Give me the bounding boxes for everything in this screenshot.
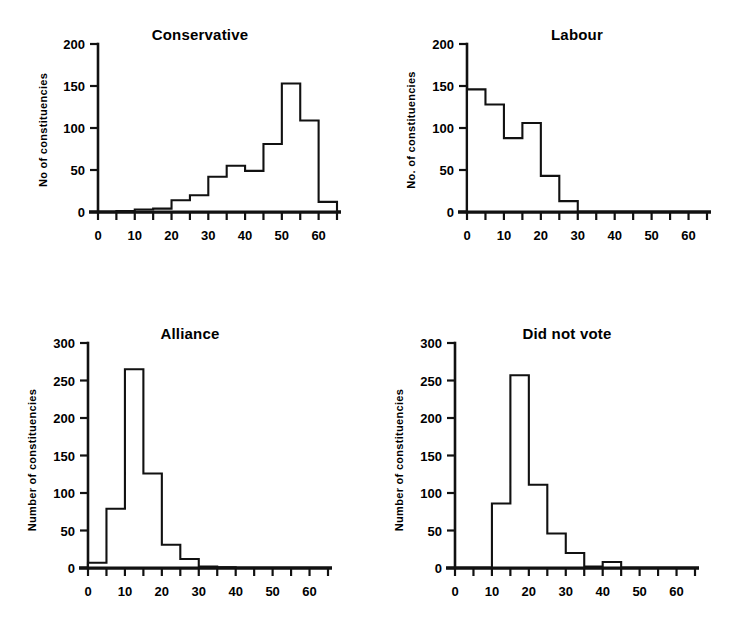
y-tick-label: 0 bbox=[78, 205, 85, 220]
y-tick-label: 200 bbox=[63, 37, 85, 52]
x-tick-label: 50 bbox=[265, 584, 279, 599]
y-tick-label: 250 bbox=[53, 374, 75, 389]
chart-svg: Conservative050100150200No of constituen… bbox=[0, 0, 367, 305]
chart-title: Did not vote bbox=[522, 325, 611, 342]
x-tick-label: 10 bbox=[497, 228, 511, 243]
x-tick-label: 40 bbox=[607, 228, 621, 243]
y-tick-label: 100 bbox=[63, 121, 85, 136]
y-tick-label: 300 bbox=[420, 336, 442, 351]
chart-svg: Did not vote050100150200250300Number of … bbox=[367, 305, 735, 640]
chart-title: Alliance bbox=[160, 325, 219, 342]
panel-alliance: Alliance050100150200250300Number of cons… bbox=[0, 305, 367, 640]
x-tick-label: 30 bbox=[192, 584, 206, 599]
x-tick-label: 50 bbox=[275, 228, 289, 243]
x-tick-label: 40 bbox=[238, 228, 252, 243]
x-tick-label: 10 bbox=[128, 228, 142, 243]
y-tick-label: 150 bbox=[53, 449, 75, 464]
y-tick-label: 100 bbox=[432, 121, 454, 136]
y-tick-label: 150 bbox=[63, 79, 85, 94]
x-tick-label: 30 bbox=[559, 584, 573, 599]
y-axis-title: Number of constituencies bbox=[26, 389, 38, 531]
x-tick-label: 10 bbox=[485, 584, 499, 599]
x-tick-label: 60 bbox=[302, 584, 316, 599]
x-tick-label: 0 bbox=[84, 584, 91, 599]
x-tick-label: 30 bbox=[201, 228, 215, 243]
x-tick-label: 0 bbox=[463, 228, 470, 243]
histogram-figure: Conservative050100150200No of constituen… bbox=[0, 0, 735, 640]
y-tick-label: 200 bbox=[53, 411, 75, 426]
y-axis-title: No. of constituencies bbox=[405, 71, 417, 189]
histogram-outline bbox=[455, 375, 695, 568]
y-tick-label: 100 bbox=[420, 486, 442, 501]
x-tick-label: 0 bbox=[451, 584, 458, 599]
histogram-outline bbox=[98, 83, 337, 212]
y-axis-title: No of constituencies bbox=[37, 73, 49, 187]
x-tick-label: 10 bbox=[118, 584, 132, 599]
y-tick-label: 200 bbox=[432, 37, 454, 52]
y-tick-label: 150 bbox=[420, 449, 442, 464]
y-tick-label: 250 bbox=[420, 374, 442, 389]
y-tick-label: 50 bbox=[440, 163, 454, 178]
chart-title: Conservative bbox=[152, 26, 249, 43]
panel-did-not-vote: Did not vote050100150200250300Number of … bbox=[367, 305, 735, 640]
y-tick-label: 150 bbox=[432, 79, 454, 94]
y-tick-label: 0 bbox=[435, 561, 442, 576]
chart-title: Labour bbox=[551, 26, 603, 43]
histogram-outline bbox=[467, 89, 707, 212]
x-tick-label: 20 bbox=[155, 584, 169, 599]
y-tick-label: 0 bbox=[447, 205, 454, 220]
x-tick-label: 60 bbox=[669, 584, 683, 599]
x-tick-label: 40 bbox=[228, 584, 242, 599]
x-tick-label: 30 bbox=[571, 228, 585, 243]
y-tick-label: 100 bbox=[53, 486, 75, 501]
x-tick-label: 20 bbox=[534, 228, 548, 243]
histogram-outline bbox=[88, 369, 328, 568]
panel-conservative: Conservative050100150200No of constituen… bbox=[0, 0, 367, 305]
y-tick-label: 0 bbox=[68, 561, 75, 576]
x-tick-label: 50 bbox=[632, 584, 646, 599]
y-tick-label: 50 bbox=[428, 524, 442, 539]
x-tick-label: 20 bbox=[164, 228, 178, 243]
chart-svg: Labour050100150200No. of constituencies0… bbox=[367, 0, 735, 305]
x-tick-label: 60 bbox=[311, 228, 325, 243]
x-tick-label: 60 bbox=[681, 228, 695, 243]
x-tick-label: 50 bbox=[644, 228, 658, 243]
x-tick-label: 0 bbox=[94, 228, 101, 243]
chart-svg: Alliance050100150200250300Number of cons… bbox=[0, 305, 367, 640]
x-tick-label: 20 bbox=[522, 584, 536, 599]
y-tick-label: 300 bbox=[53, 336, 75, 351]
y-tick-label: 200 bbox=[420, 411, 442, 426]
panel-labour: Labour050100150200No. of constituencies0… bbox=[367, 0, 735, 305]
y-tick-label: 50 bbox=[71, 163, 85, 178]
x-tick-label: 40 bbox=[595, 584, 609, 599]
y-tick-label: 50 bbox=[61, 524, 75, 539]
y-axis-title: Number of constituencies bbox=[393, 389, 405, 531]
